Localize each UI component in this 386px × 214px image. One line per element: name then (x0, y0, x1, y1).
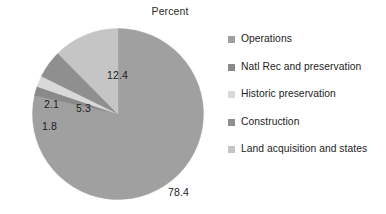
legend-item[interactable]: Historic preservation (228, 88, 384, 101)
legend-item[interactable]: Construction (228, 116, 384, 129)
slice-label-construction: 5.3 (76, 102, 91, 114)
legend-item-label: Natl Rec and preservation (241, 61, 361, 74)
legend-swatch-icon (228, 64, 235, 71)
legend-swatch-icon (228, 36, 235, 43)
slice-label-land-acquisition: 12.4 (107, 69, 128, 81)
legend-item-label: Land acquisition and states (241, 143, 367, 156)
legend-item[interactable]: Natl Rec and preservation (228, 61, 384, 74)
chart-legend: OperationsNatl Rec and preservationHisto… (228, 33, 384, 156)
legend-swatch-icon (228, 119, 235, 126)
chart-title: Percent (0, 5, 386, 17)
pie-svg (32, 28, 204, 200)
slice-label-natl-rec: 1.8 (42, 120, 57, 132)
pie-chart: Percent 78.4 12.4 5.3 2.1 1.8 Operations… (0, 0, 386, 214)
legend-item-label: Operations (241, 33, 292, 46)
chart-title-text: Percent (152, 5, 189, 17)
legend-swatch-icon (228, 91, 235, 98)
legend-item-label: Construction (241, 116, 299, 129)
slice-label-historic-preservation: 2.1 (44, 98, 59, 110)
legend-swatch-icon (228, 146, 235, 153)
legend-item[interactable]: Operations (228, 33, 384, 46)
pie-plot-area: 78.4 12.4 5.3 2.1 1.8 (32, 28, 204, 200)
legend-item[interactable]: Land acquisition and states (228, 143, 384, 156)
legend-item-label: Historic preservation (241, 88, 336, 101)
slice-label-operations: 78.4 (168, 186, 189, 198)
